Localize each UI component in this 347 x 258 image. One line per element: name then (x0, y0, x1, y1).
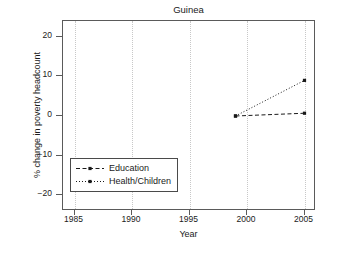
legend-label: Education (109, 163, 149, 174)
legend-label: Health/Children (109, 176, 171, 187)
x-axis-label: Year (62, 229, 315, 240)
data-point-marker (234, 114, 237, 117)
x-tick-label: 1990 (109, 214, 153, 224)
y-tick-label: −20 (12, 189, 52, 198)
x-tick-label: 1995 (167, 214, 211, 224)
legend-item-health-children[interactable]: Health/Children (75, 175, 171, 188)
chart-title: Guinea (62, 4, 315, 16)
gridline-x-2000 (247, 21, 249, 209)
y-tick-label: −10 (12, 150, 52, 159)
legend-item-education[interactable]: Education (75, 162, 171, 175)
x-tick-label: 2005 (282, 214, 326, 224)
series-line-health-children (236, 80, 305, 116)
legend-line-sample (75, 176, 105, 187)
y-tick-label: 0 (12, 110, 52, 119)
gridline-x-1995 (190, 21, 192, 209)
data-point-marker (234, 114, 237, 117)
chart-figure: Guinea % change in poverty headcount Yea… (0, 0, 347, 258)
series-line-education (236, 113, 305, 116)
x-tick-label: 1985 (52, 214, 96, 224)
gridline-x-2005 (305, 21, 307, 209)
x-tick-label: 2000 (224, 214, 268, 224)
y-tick-label: 10 (12, 70, 52, 79)
y-tick-label: 20 (12, 31, 52, 40)
legend: EducationHealth/Children (70, 158, 178, 192)
legend-line-sample (75, 163, 105, 174)
